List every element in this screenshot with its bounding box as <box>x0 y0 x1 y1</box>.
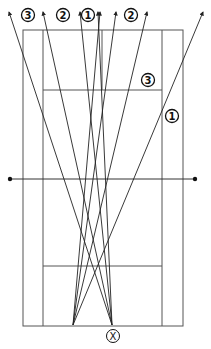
label-top-left-3: 3 <box>22 9 35 22</box>
shot-line-from-right-1 <box>9 12 112 325</box>
label-side-3: 3 <box>142 74 155 87</box>
label-text: 2 <box>128 10 135 21</box>
label-text: 3 <box>145 75 152 86</box>
label-top-center-1: 1 <box>82 9 95 22</box>
court-outer-boundary <box>23 30 183 326</box>
label-text: 2 <box>60 10 67 21</box>
origin-marker-text: X <box>110 331 117 342</box>
label-text: 1 <box>169 111 176 122</box>
label-top-left-2: 2 <box>57 9 70 22</box>
label-text: 3 <box>25 10 32 21</box>
court-diagram: 3 2 1 2 3 1 X <box>0 0 211 349</box>
net-post-right <box>193 177 197 181</box>
label-side-1: 1 <box>166 110 179 123</box>
player-origin-marker: X <box>107 330 120 343</box>
shot-lines <box>9 12 203 325</box>
net-post-left <box>8 177 12 181</box>
label-top-right-2: 2 <box>125 9 138 22</box>
label-text: 1 <box>85 10 92 21</box>
